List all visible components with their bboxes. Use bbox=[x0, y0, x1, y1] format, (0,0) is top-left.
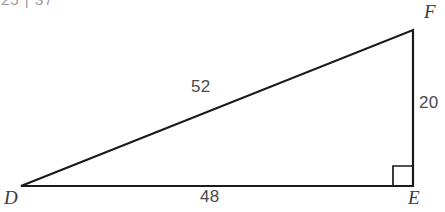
triangle-graphic bbox=[0, 0, 445, 212]
vertex-label-d: D bbox=[4, 188, 18, 207]
right-angle-marker-icon bbox=[393, 166, 413, 186]
triangle-figure-canvas: 25 | 37 52 20 48 D E F bbox=[0, 0, 445, 212]
vertex-label-e: E bbox=[408, 188, 420, 207]
side-length-label-hypotenuse: 52 bbox=[191, 78, 211, 95]
triangle-outline bbox=[21, 30, 413, 186]
vertex-label-f: F bbox=[424, 2, 436, 21]
side-length-label-de: 48 bbox=[200, 188, 220, 205]
side-length-label-ef: 20 bbox=[419, 94, 439, 111]
